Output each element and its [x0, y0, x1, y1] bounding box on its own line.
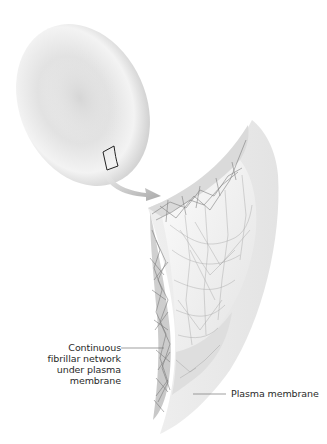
membrane-sheet	[148, 120, 279, 434]
label-network-line-4: membrane	[11, 375, 121, 386]
label-plasma-membrane: Plasma membrane	[231, 388, 319, 399]
label-network-line-1: Continuous	[11, 342, 121, 353]
label-fibrillar-network: Continuous fibrillar network under plasm…	[11, 342, 121, 386]
label-network-line-2: fibrillar network	[11, 353, 121, 364]
label-network-line-3: under plasma	[11, 364, 121, 375]
red-blood-cell	[0, 3, 175, 208]
